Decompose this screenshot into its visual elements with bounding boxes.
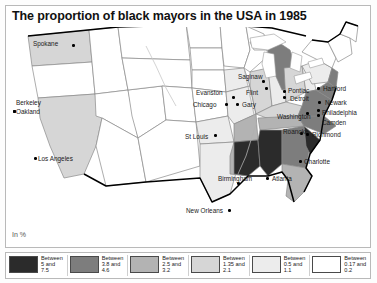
state-montana <box>118 23 190 60</box>
city-label: Birmingham <box>218 175 252 182</box>
city-label: Spokane <box>33 40 58 47</box>
city-dot <box>317 109 320 112</box>
city-label: Detroit <box>290 95 309 102</box>
units-label: In % <box>12 231 26 238</box>
city-label: Flint <box>246 89 258 96</box>
city-dot <box>34 157 37 160</box>
city-dot <box>318 101 321 104</box>
legend-label: Between1.35 and2.1 <box>223 256 245 273</box>
city-dot <box>266 177 269 180</box>
legend-label: Between2.5 and3.2 <box>162 256 184 273</box>
lake-huron <box>290 52 302 72</box>
legend-item: Between2.5 and3.2 <box>127 253 188 278</box>
city-label: Saginaw <box>238 73 263 80</box>
legend-swatch <box>312 256 341 273</box>
city-label: Evanston <box>196 89 223 96</box>
page-title: The proportion of black mayors in the US… <box>12 9 307 23</box>
city-dot <box>283 96 286 99</box>
legend-item: Between5 and7.5 <box>6 253 67 278</box>
city-dot <box>237 182 240 185</box>
city-label: Atlanta <box>272 175 292 182</box>
city-dot <box>317 87 320 90</box>
legend-label: Between5 and7.5 <box>41 256 63 273</box>
legend-item: Between0.17 and0.2 <box>309 253 370 278</box>
legend-swatch <box>70 256 99 273</box>
city-dot <box>283 90 286 93</box>
state-south-dakota <box>190 48 224 70</box>
legend-label: Between0.5 and1.1 <box>284 256 306 273</box>
city-label: Hartford <box>323 85 346 92</box>
legend-label: Between3.8 and4.6 <box>102 256 124 273</box>
city-dot <box>236 103 239 106</box>
legend-label-line: 2.1 <box>223 268 245 274</box>
city-dot <box>225 103 228 106</box>
legend-label-line: 7.5 <box>41 268 63 274</box>
city-dot <box>299 160 302 163</box>
map-figure: The proportion of black mayors in the US… <box>0 0 377 283</box>
city-dot <box>265 87 268 90</box>
legend-label-line: 1.1 <box>284 268 306 274</box>
city-label: Newark <box>325 99 347 106</box>
legend: Between5 and7.5Between3.8 and4.6Between2… <box>5 252 371 279</box>
legend-item: Between0.5 and1.1 <box>249 253 310 278</box>
city-label: New Orleans <box>186 207 223 214</box>
city-dot <box>228 209 231 212</box>
city-label: Washington <box>277 113 311 120</box>
legend-item: Between3.8 and4.6 <box>67 253 128 278</box>
city-dot <box>72 44 75 47</box>
legend-swatch <box>252 256 281 273</box>
legend-item: Between1.35 and2.1 <box>188 253 249 278</box>
legend-swatch <box>191 256 220 273</box>
legend-swatch <box>9 256 38 273</box>
city-label: Oakland <box>16 108 40 115</box>
title-bar: The proportion of black mayors in the US… <box>6 6 308 27</box>
city-label: Charlotte <box>304 158 330 165</box>
legend-label: Between0.17 and0.2 <box>344 256 366 273</box>
city-label: Chicago <box>193 101 216 108</box>
city-label: Philadelphia <box>322 109 357 116</box>
city-label: Camden <box>322 119 346 126</box>
city-label: Roanoke <box>283 128 309 135</box>
city-dot <box>262 80 265 83</box>
city-dot <box>306 133 309 136</box>
legend-label-line: 0.2 <box>344 268 366 274</box>
city-dot <box>214 134 217 137</box>
city-label: Gary <box>242 101 256 108</box>
city-label: St Louis <box>185 133 208 140</box>
city-label: Los Angeles <box>38 155 73 162</box>
state-minnesota <box>220 24 250 68</box>
legend-label-line: 4.6 <box>102 268 124 274</box>
city-dot <box>232 96 235 99</box>
city-dot <box>317 114 320 117</box>
city-label: Richmond <box>312 131 341 138</box>
legend-swatch <box>130 256 159 273</box>
legend-label-line: 3.2 <box>162 268 184 274</box>
state-colorado <box>162 86 196 122</box>
state-wyoming <box>122 58 192 90</box>
city-label: Pontiac <box>288 87 309 94</box>
city-label: Berkeley <box>16 99 41 106</box>
state-oregon <box>32 62 95 98</box>
